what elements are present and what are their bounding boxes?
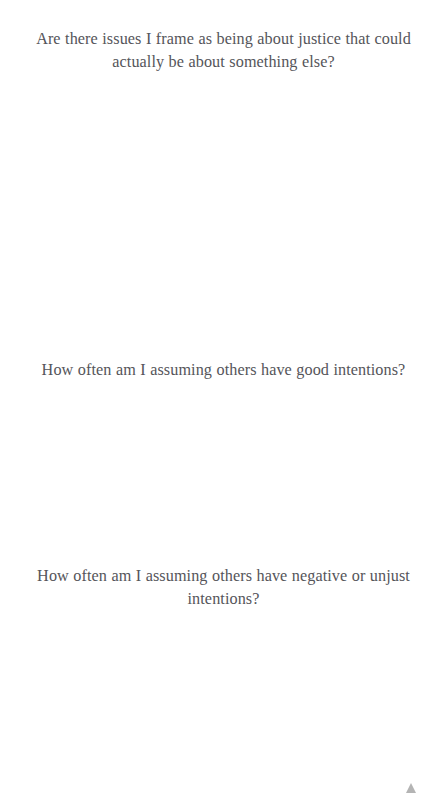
scroll-to-top-button[interactable]	[399, 776, 423, 793]
media-placeholder-1	[0, 80, 447, 355]
reflection-prompt-negative-intentions: How often am I assuming others have nega…	[0, 565, 447, 611]
page-root: Are there issues I frame as being about …	[0, 0, 447, 793]
media-placeholder-3	[0, 615, 447, 775]
reflection-prompt-justice-framing: Are there issues I frame as being about …	[0, 28, 447, 74]
triangle-up-icon	[406, 783, 416, 793]
media-placeholder-2	[0, 390, 447, 562]
reflection-prompt-good-intentions: How often am I assuming others have good…	[0, 359, 447, 382]
